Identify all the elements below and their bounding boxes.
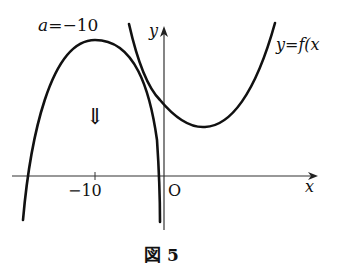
parabola-label: a=−10 — [38, 15, 98, 35]
axes — [12, 26, 318, 230]
y-axis-label: y — [148, 21, 159, 40]
function-label: y=f(x — [275, 35, 320, 54]
parabola-label-var: a — [38, 15, 48, 35]
origin-label: O — [168, 181, 181, 200]
down-arrow-icon: ⇓ — [86, 104, 104, 129]
x-axis-label: x — [305, 177, 314, 196]
figure-canvas: a=−10 y y=f(x ⇓ −10 O x 図 5 — [0, 0, 338, 271]
x-tick-label: −10 — [68, 181, 102, 200]
figure-caption: 図 5 — [144, 245, 179, 265]
parabola-label-value: =−10 — [48, 15, 98, 35]
